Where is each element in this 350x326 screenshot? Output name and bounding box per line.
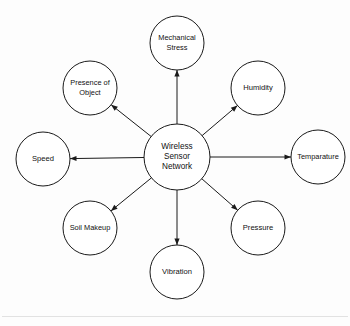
network-diagram: MechanicalStressHumidityTemparaturePress… — [0, 0, 350, 326]
node-label-speed: Speed — [32, 154, 54, 163]
nodes-layer: MechanicalStressHumidityTemparaturePress… — [16, 16, 345, 299]
node-soil-makeup[interactable]: Soil Makeup — [63, 201, 117, 255]
arrow-head-mechanical-stress — [174, 70, 179, 77]
arrow-head-presence-of-object — [111, 105, 118, 111]
node-label-wireless-sensor-network: Network — [162, 162, 193, 171]
node-vibration[interactable]: Vibration — [150, 245, 204, 299]
diagram-canvas: MechanicalStressHumidityTemparaturePress… — [0, 0, 350, 326]
node-label-mechanical-stress: Mechanical — [158, 33, 196, 42]
node-label-wireless-sensor-network: Wireless — [161, 142, 192, 151]
arrow-head-vibration — [174, 239, 179, 246]
node-label-vibration: Vibration — [162, 267, 192, 276]
node-presence-of-object[interactable]: Presence ofObject — [63, 61, 117, 115]
edge-to-soil-makeup — [111, 178, 152, 211]
node-temparature[interactable]: Temparature — [291, 130, 345, 184]
edge-to-humidity — [202, 106, 237, 136]
node-speed[interactable]: Speed — [16, 132, 70, 186]
node-label-mechanical-stress: Stress — [167, 43, 188, 52]
node-label-presence-of-object: Object — [79, 88, 100, 97]
arrow-head-temparature — [285, 154, 292, 159]
edge-to-presence-of-object — [111, 105, 151, 137]
node-label-soil-makeup: Soil Makeup — [70, 223, 111, 232]
node-wireless-sensor-network[interactable]: WirelessSensorNetwork — [144, 124, 210, 190]
node-mechanical-stress[interactable]: MechanicalStress — [150, 16, 204, 70]
node-label-wireless-sensor-network: Sensor — [164, 152, 190, 161]
node-label-temparature: Temparature — [297, 152, 339, 161]
arrow-head-speed — [70, 156, 77, 161]
edge-to-speed — [70, 157, 144, 158]
node-label-presence-of-object: Presence of — [70, 78, 110, 87]
edge-to-pressure — [202, 179, 238, 210]
node-humidity[interactable]: Humidity — [231, 61, 285, 115]
node-label-pressure: Pressure — [243, 223, 273, 232]
node-pressure[interactable]: Pressure — [231, 201, 285, 255]
node-label-humidity: Humidity — [243, 83, 273, 92]
